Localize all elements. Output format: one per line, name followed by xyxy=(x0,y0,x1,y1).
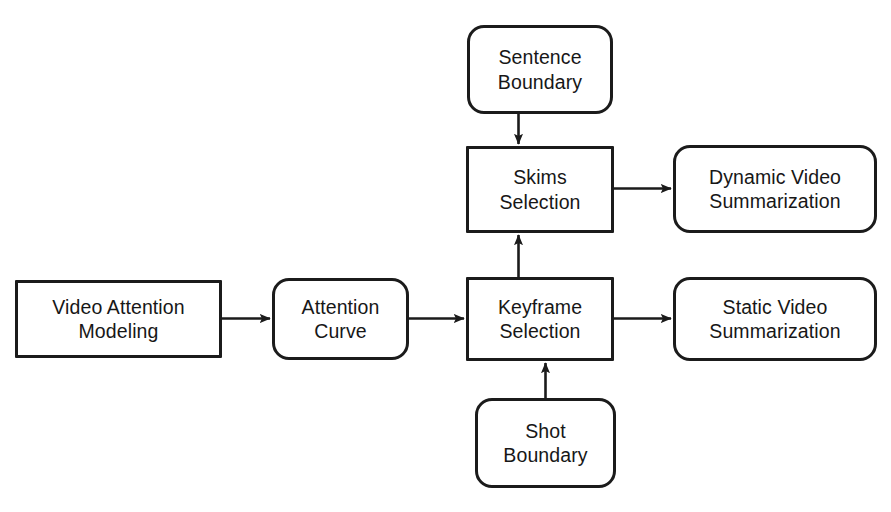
diagram-canvas: Video Attention Modeling Attention Curve… xyxy=(0,0,891,512)
node-label: Dynamic Video Summarization xyxy=(705,165,845,213)
node-dynamic-video-summarization[interactable]: Dynamic Video Summarization xyxy=(673,145,877,233)
edge-layer xyxy=(0,0,891,512)
node-video-attention-modeling[interactable]: Video Attention Modeling xyxy=(15,280,222,358)
node-keyframe-selection[interactable]: Keyframe Selection xyxy=(466,277,614,361)
node-skims-selection[interactable]: Skims Selection xyxy=(466,146,614,233)
node-label: Static Video Summarization xyxy=(705,295,844,343)
node-static-video-summarization[interactable]: Static Video Summarization xyxy=(673,277,877,361)
node-label: Attention Curve xyxy=(298,295,384,343)
node-label: Keyframe Selection xyxy=(494,295,586,343)
node-sentence-boundary[interactable]: Sentence Boundary xyxy=(467,25,613,114)
node-label: Shot Boundary xyxy=(499,419,591,467)
node-label: Skims Selection xyxy=(495,165,584,213)
node-attention-curve[interactable]: Attention Curve xyxy=(272,278,409,360)
node-label: Video Attention Modeling xyxy=(48,295,188,343)
node-label: Sentence Boundary xyxy=(494,45,586,93)
node-shot-boundary[interactable]: Shot Boundary xyxy=(475,398,616,488)
